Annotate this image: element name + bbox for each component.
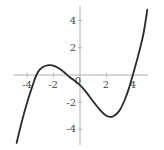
x-tick-label: 2	[103, 79, 109, 90]
x-tick-label: -4	[22, 79, 32, 90]
x-tick-labels: -4 -2 0 2 4	[22, 75, 136, 90]
y-tick-label: -4	[66, 123, 76, 134]
cubic-curve	[17, 10, 148, 143]
y-tick-label: 2	[70, 42, 76, 53]
x-tick-label: -2	[48, 79, 58, 90]
y-tick-label: 4	[70, 15, 76, 26]
function-plot: -4 -2 0 2 4 4 2 -2 -4	[0, 0, 164, 150]
y-tick-label: -2	[66, 97, 76, 108]
